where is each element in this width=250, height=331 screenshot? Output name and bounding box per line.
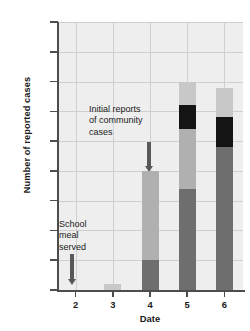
bar-segment-segment-4-light-gray	[179, 82, 196, 106]
x-axis-tick-label: 2	[63, 299, 89, 310]
bar-date-5	[179, 82, 196, 290]
bar-segment-segment-3-black	[179, 105, 196, 129]
y-axis-tick	[50, 21, 58, 23]
y-axis-title: Number of reported cases	[22, 50, 32, 220]
bar-segment-segment-1-dark-gray	[216, 147, 233, 290]
y-axis-tick	[50, 259, 58, 261]
bar-date-4	[142, 171, 159, 290]
community-cases-line-2: of community	[89, 115, 143, 126]
x-axis-tick-label: 3	[100, 299, 126, 310]
community-cases-line-1: Initial reports	[89, 104, 143, 115]
x-axis-tick	[149, 291, 151, 297]
x-axis-title: Date	[57, 313, 243, 324]
school-meal-line-2: meal	[59, 230, 87, 241]
y-axis-tick	[50, 81, 58, 83]
bar-segment-segment-1-dark-gray	[142, 260, 159, 290]
school-meal-line-1: School	[59, 219, 87, 230]
x-axis-tick	[186, 291, 188, 297]
gridline-vertical	[113, 22, 114, 290]
y-axis-tick	[50, 51, 58, 53]
x-axis-tick	[112, 291, 114, 297]
y-axis-tick	[50, 289, 58, 291]
community-cases-annotation-text: Initial reports of community cases	[89, 104, 143, 138]
bar-segment-segment-2-medium-gray	[142, 171, 159, 260]
y-axis-tick	[50, 140, 58, 142]
school-meal-annotation-text: School meal served	[59, 219, 87, 253]
epidemic-curve-figure: Number of reported cases 051015202530354…	[0, 0, 250, 331]
x-axis-tick-label: 4	[137, 299, 163, 310]
community-cases-line-3: cases	[89, 127, 143, 138]
school-meal-arrow-icon	[63, 254, 81, 287]
school-meal-line-3: served	[59, 242, 87, 253]
x-axis-tick-label: 6	[211, 299, 237, 310]
community-cases-arrow-icon	[140, 142, 158, 174]
x-axis-line	[57, 290, 245, 292]
bar-segment-segment-4-light-gray	[104, 284, 121, 290]
bar-segment-segment-1-dark-gray	[179, 189, 196, 290]
bar-segment-segment-2-medium-gray	[179, 129, 196, 189]
bar-segment-segment-4-light-gray	[216, 88, 233, 118]
y-axis-tick	[50, 111, 58, 113]
bar-date-3	[104, 284, 121, 290]
y-axis-tick	[50, 170, 58, 172]
x-axis-tick-label: 5	[174, 299, 200, 310]
x-axis-tick	[75, 291, 77, 297]
y-axis-tick	[50, 230, 58, 232]
bar-segment-segment-3-black	[216, 117, 233, 147]
y-axis-tick	[50, 200, 58, 202]
x-axis-tick	[224, 291, 226, 297]
bar-date-6	[216, 88, 233, 290]
